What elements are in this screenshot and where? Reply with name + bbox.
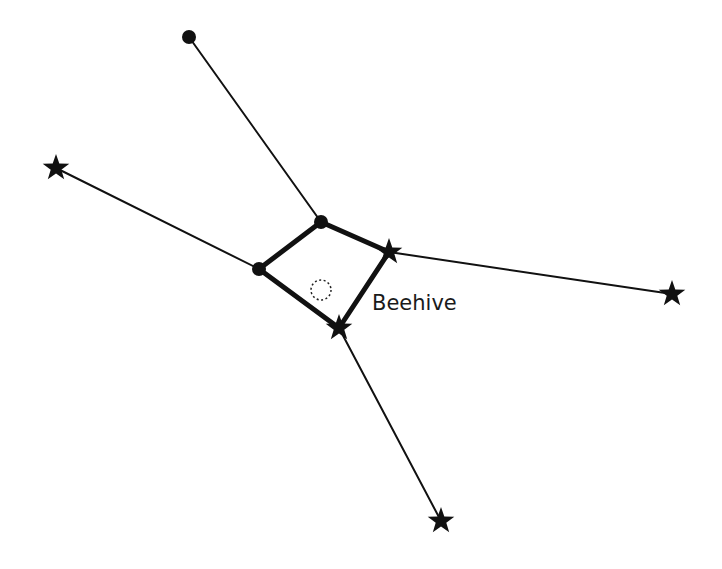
- star-dot-icon: [252, 262, 266, 276]
- star-icon: [376, 238, 403, 263]
- beehive-cluster-icon: [311, 280, 331, 300]
- line-s2-s4: [339, 252, 389, 328]
- star-icon: [43, 154, 70, 179]
- line-n2-n3: [259, 222, 321, 269]
- line-s1-n3: [56, 168, 259, 269]
- beehive-label: Beehive: [372, 291, 457, 315]
- line-s4-s5: [339, 328, 441, 521]
- constellation-diagram: [0, 0, 722, 569]
- star-icon: [428, 507, 455, 532]
- line-n1-n2: [189, 37, 321, 222]
- star-icon: [659, 280, 686, 305]
- line-s2-s3: [389, 252, 672, 294]
- star-dot-icon: [182, 30, 196, 44]
- line-n2-s2: [321, 222, 389, 252]
- star-dot-icon: [314, 215, 328, 229]
